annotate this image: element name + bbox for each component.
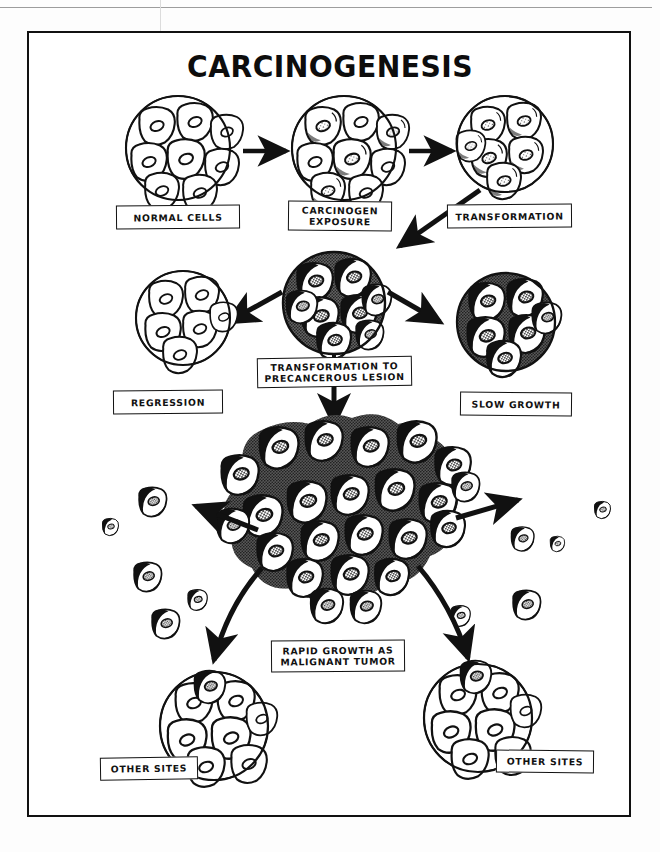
label-transformation: TRANSFORMATION bbox=[447, 203, 572, 228]
scan-header-rule bbox=[0, 7, 652, 8]
label-other-sites-left: OTHER SITES bbox=[100, 756, 198, 781]
figure-frame bbox=[27, 31, 631, 817]
label-normal-cells: NORMAL CELLS bbox=[116, 204, 240, 229]
page-canvas: CARCINOGENESIS bbox=[0, 0, 660, 852]
label-transformation-to-precancerous-lesion: TRANSFORMATION TO PRECANCEROUS LESION bbox=[257, 356, 412, 388]
label-regression: REGRESSION bbox=[113, 390, 223, 415]
label-carcinogen-exposure: CARCINOGEN EXPOSURE bbox=[288, 200, 392, 231]
label-other-sites-right: OTHER SITES bbox=[496, 749, 594, 773]
label-slow-growth: SLOW GROWTH bbox=[460, 391, 572, 416]
label-rapid-growth-malignant-tumor: RAPID GROWTH AS MALIGNANT TUMOR bbox=[271, 639, 405, 672]
page-title: CARCINOGENESIS bbox=[20, 49, 640, 84]
